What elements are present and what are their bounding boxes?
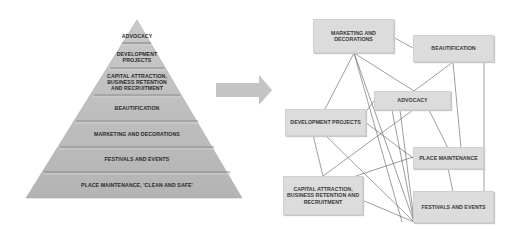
pyramid-tier-capital-attraction: CAPITAL ATTRACTION, BUSINESS RETENTION A… xyxy=(104,73,170,91)
pyramid-tier-beautification: BEAUTIFICATION xyxy=(87,105,187,111)
node-festivals-and-events: FESTIVALS AND EVENTS xyxy=(413,191,494,223)
node-label: ADVOCACY xyxy=(397,97,427,104)
node-marketing-and-decorations: MARKETING AND DECORATIONS xyxy=(313,19,394,53)
node-label: DEVELOPMENT PROJECTS xyxy=(290,119,360,126)
right-arrow-icon xyxy=(216,75,272,105)
node-beautification: BEAUTIFICATION xyxy=(413,35,494,62)
node-development-projects: DEVELOPMENT PROJECTS xyxy=(285,109,366,136)
node-label: PLACE MAINTENANCE xyxy=(419,155,478,162)
node-label: CAPITAL ATTRACTION, BUSINESS RETENTION A… xyxy=(287,186,359,206)
node-capital-attraction: CAPITAL ATTRACTION, BUSINESS RETENTION A… xyxy=(283,176,363,215)
node-label: FESTIVALS AND EVENTS xyxy=(421,204,485,211)
pyramid-tier-advocacy: ADVOCACY xyxy=(112,33,162,39)
pyramid-tier-festivals: FESTIVALS AND EVENTS xyxy=(56,156,218,162)
pyramid-tier-marketing: MARKETING AND DECORATIONS xyxy=(72,131,202,137)
node-advocacy: ADVOCACY xyxy=(374,91,451,110)
node-label: BEAUTIFICATION xyxy=(431,45,475,52)
pyramid-tier-development-projects: DEVELOPMENT PROJECTS xyxy=(112,51,162,63)
node-place-maintenance: PLACE MAINTENANCE xyxy=(413,147,484,169)
diagram-canvas: ADVOCACY DEVELOPMENT PROJECTS CAPITAL AT… xyxy=(0,0,516,230)
node-label: MARKETING AND DECORATIONS xyxy=(329,30,379,43)
pyramid-tier-place-maintenance: PLACE MAINTENANCE, 'CLEAN AND SAFE' xyxy=(40,182,234,188)
